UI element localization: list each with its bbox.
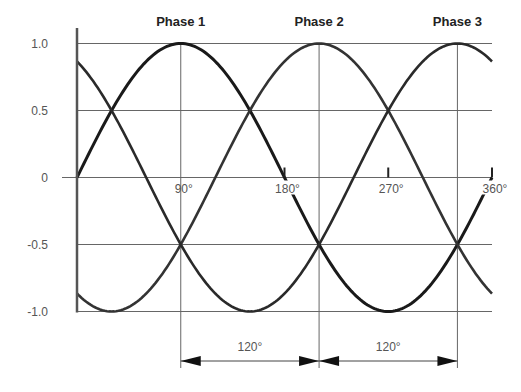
arrow-left-icon bbox=[181, 356, 201, 366]
three-phase-chart: 1.00.50-0.5-1.090°180°270°360°Phase 1Pha… bbox=[0, 0, 521, 392]
phase-label: Phase 1 bbox=[156, 14, 205, 29]
x-tick-label: 360° bbox=[483, 182, 508, 196]
labels: 1.00.50-0.5-1.090°180°270°360°Phase 1Pha… bbox=[27, 14, 508, 354]
x-tick-label: 270° bbox=[379, 182, 404, 196]
gridlines bbox=[62, 43, 492, 368]
x-tick-label: 90° bbox=[175, 182, 193, 196]
y-tick-label: 1.0 bbox=[31, 37, 48, 51]
phase-label: Phase 3 bbox=[433, 14, 482, 29]
y-tick-label: -0.5 bbox=[27, 238, 48, 252]
dimension-label: 120° bbox=[238, 340, 263, 354]
arrow-right-icon bbox=[299, 356, 319, 366]
y-tick-label: 0 bbox=[41, 171, 48, 185]
phase-label: Phase 2 bbox=[295, 14, 344, 29]
dimension-label: 120° bbox=[376, 340, 401, 354]
arrow-right-icon bbox=[437, 356, 457, 366]
y-tick-label: -1.0 bbox=[27, 305, 48, 319]
x-tick-label: 180° bbox=[275, 182, 300, 196]
arrow-left-icon bbox=[319, 356, 339, 366]
y-tick-label: 0.5 bbox=[31, 104, 48, 118]
